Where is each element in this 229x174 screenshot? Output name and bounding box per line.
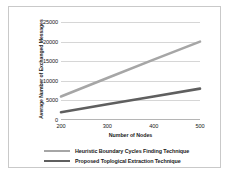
chart-figure: Average Number of Exchanged Messages 050… xyxy=(0,0,229,174)
y-tick-label: 20000 xyxy=(34,39,58,45)
y-tick-label: 15000 xyxy=(34,58,58,64)
x-tick-label: 200 xyxy=(49,122,73,130)
x-axis-tick-labels: 200300400500 xyxy=(61,122,200,130)
plot-area xyxy=(61,22,200,120)
series-lines xyxy=(61,22,200,120)
x-tick-label: 300 xyxy=(95,122,119,130)
series-line xyxy=(61,42,200,97)
x-axis-title: Number of Nodes xyxy=(61,132,200,138)
chart-legend: Heuristic Boundary Cycles Finding Techni… xyxy=(12,146,217,166)
legend-swatch-icon xyxy=(44,160,70,162)
y-axis-tick-labels: 0500010000150002000025000 xyxy=(34,22,58,120)
x-tick-label: 500 xyxy=(188,122,212,130)
legend-swatch-icon xyxy=(44,150,70,152)
x-tick-label: 400 xyxy=(142,122,166,130)
y-tick-label: 25000 xyxy=(34,19,58,25)
y-tick-label: 10000 xyxy=(34,78,58,84)
series-line xyxy=(61,89,200,113)
y-tick-label: 5000 xyxy=(34,97,58,103)
legend-item[interactable]: Proposed Toplogical Extraction Technique xyxy=(12,156,217,166)
legend-label: Heuristic Boundary Cycles Finding Techni… xyxy=(75,148,189,154)
legend-item[interactable]: Heuristic Boundary Cycles Finding Techni… xyxy=(12,146,217,156)
legend-label: Proposed Toplogical Extraction Technique xyxy=(75,158,181,164)
